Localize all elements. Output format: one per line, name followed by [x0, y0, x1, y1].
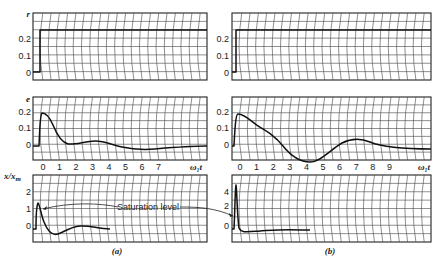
panel-label-b: (b) [325, 246, 336, 256]
ylabel-e: e [26, 94, 30, 104]
chart-labels: r0.20.100.20.10e0.20.100.20.10x/xm210420… [3, 9, 431, 256]
x-tick-label: 1 [254, 162, 259, 172]
y-tick-label: 0.2 [18, 34, 31, 44]
x-tick-label: 7 [354, 162, 359, 172]
y-tick-label: 0.2 [18, 107, 31, 117]
y-tick-label: 0.1 [216, 123, 229, 133]
x-tick-label: 4 [304, 162, 309, 172]
x-tick-label: 5 [123, 162, 128, 172]
arrowhead-icon [43, 206, 47, 210]
chart-grids [33, 13, 431, 242]
chart-figure: r0.20.100.20.10e0.20.100.20.10x/xm210420… [0, 0, 440, 265]
y-tick-label: 0.2 [216, 34, 229, 44]
grid-panel-1-row-2 [232, 175, 431, 242]
x-tick-label: 8 [370, 162, 375, 172]
y-tick-label: 0 [224, 221, 229, 231]
y-tick-label: 0 [26, 140, 31, 150]
y-tick-label: 0.2 [216, 107, 229, 117]
y-tick-label: 0 [224, 68, 229, 78]
xlabel-b: ω₁t [418, 162, 431, 172]
y-tick-label: 0 [224, 140, 229, 150]
x-tick-label: 7 [156, 162, 161, 172]
y-tick-label: 0.1 [18, 123, 31, 133]
saturation-level-label: Saturation level [117, 202, 179, 212]
grid-panel-0-row-1 [33, 97, 207, 160]
ylabel-r: r [26, 9, 30, 19]
x-tick-label: 6 [337, 162, 342, 172]
ylabel-x-over-xm: x/xm [3, 171, 22, 183]
y-tick-label: 0.1 [18, 51, 31, 61]
curve-e-b [232, 114, 431, 162]
y-tick-label: 0 [26, 68, 31, 78]
x-tick-label: 1 [57, 162, 62, 172]
x-tick-label: 2 [73, 162, 78, 172]
xlabel-a: ω₁t [190, 162, 203, 172]
x-tick-label: 4 [106, 162, 111, 172]
y-tick-label: 2 [26, 187, 31, 197]
x-tick-label: 0 [40, 162, 45, 172]
y-tick-label: 0 [26, 221, 31, 231]
y-tick-label: 4 [224, 187, 229, 197]
y-tick-label: 1 [26, 204, 31, 214]
x-tick-label: 3 [287, 162, 292, 172]
grid-panel-0-row-0 [33, 13, 207, 80]
x-tick-label: 5 [320, 162, 325, 172]
x-tick-label: 2 [271, 162, 276, 172]
x-tick-label: 6 [139, 162, 144, 172]
x-tick-label: 3 [90, 162, 95, 172]
x-tick-label: 0 [237, 162, 242, 172]
panel-label-a: (a) [112, 246, 123, 256]
x-tick-label: 9 [387, 162, 392, 172]
curve-r-b [232, 30, 431, 72]
grid-panel-1-row-0 [232, 13, 431, 80]
y-tick-label: 2 [224, 201, 229, 211]
y-tick-label: 0.1 [216, 51, 229, 61]
